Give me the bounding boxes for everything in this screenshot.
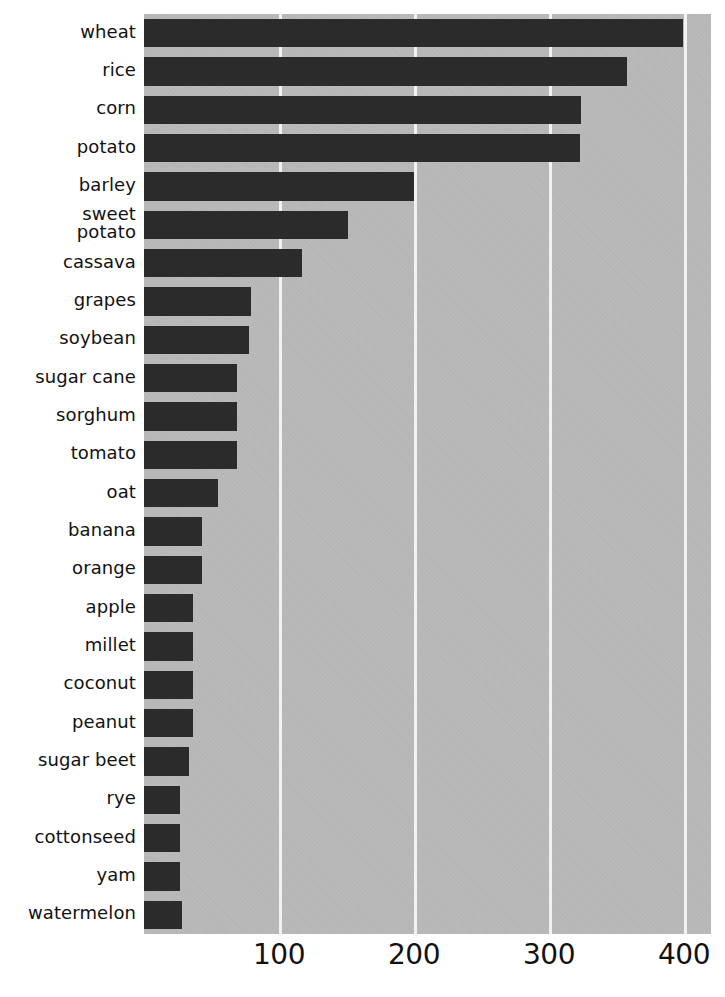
category-label: rice [0,61,136,82]
bar [144,862,180,890]
category-label: rye [0,789,136,810]
bar [144,172,414,200]
category-label: banana [0,521,136,542]
bar [144,211,348,239]
bar [144,824,180,852]
bar-row [144,632,711,660]
category-label: coconut [0,674,136,695]
bar-row [144,19,711,47]
bar-row [144,901,711,929]
category-label: sweet potato [0,205,136,245]
bar-row [144,786,711,814]
category-label: millet [0,636,136,657]
category-label: potato [0,138,136,159]
bar [144,96,581,124]
bar-row [144,172,711,200]
category-labels: wheatricecornpotatobarleysweet potatocas… [0,14,136,934]
bar-row [144,479,711,507]
category-label: cottonseed [0,828,136,849]
bar [144,287,251,315]
x-tick-label: 400 [658,938,710,971]
bar-row [144,556,711,584]
bar [144,326,249,354]
bar-row [144,862,711,890]
category-label: peanut [0,713,136,734]
bar-row [144,211,711,239]
x-tick-label: 100 [253,938,305,971]
bars-layer [144,14,711,934]
bar-row [144,709,711,737]
bar [144,441,237,469]
category-label: apple [0,598,136,619]
category-label: cassava [0,253,136,274]
x-tick-label: 300 [523,938,575,971]
category-label: watermelon [0,904,136,925]
bar [144,364,237,392]
category-label: oat [0,483,136,504]
bar-chart: wheatricecornpotatobarleysweet potatocas… [0,0,725,997]
bar-row [144,287,711,315]
bar [144,556,202,584]
bar [144,19,683,47]
category-label: grapes [0,291,136,312]
bar [144,249,302,277]
bar-row [144,57,711,85]
bar [144,134,580,162]
bar [144,402,237,430]
bar [144,747,189,775]
bar-row [144,441,711,469]
bar [144,709,193,737]
bar [144,594,193,622]
bar-row [144,96,711,124]
bar-row [144,249,711,277]
bar-row [144,594,711,622]
bar-row [144,326,711,354]
category-label: tomato [0,444,136,465]
bar-row [144,824,711,852]
x-tick-label: 200 [388,938,440,971]
category-label: yam [0,866,136,887]
category-label: sorghum [0,406,136,427]
bar-row [144,364,711,392]
category-label: soybean [0,329,136,350]
category-label: wheat [0,23,136,44]
bar-row [144,671,711,699]
bar-row [144,517,711,545]
bar [144,517,202,545]
bar [144,57,627,85]
category-label: corn [0,99,136,120]
bar-row [144,747,711,775]
category-label: sugar beet [0,751,136,772]
bar [144,632,193,660]
bar-row [144,402,711,430]
category-label: orange [0,559,136,580]
bar [144,671,193,699]
category-label: sugar cane [0,368,136,389]
x-axis: 100200300400 [0,934,725,997]
bar-row [144,134,711,162]
category-label: barley [0,176,136,197]
bar [144,786,180,814]
bar [144,901,182,929]
bar [144,479,218,507]
